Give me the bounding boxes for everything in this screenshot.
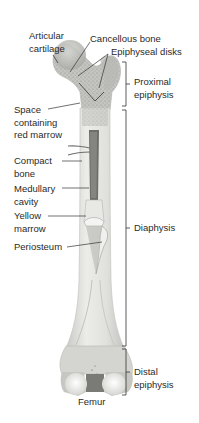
- label-line: Diaphysis: [134, 222, 175, 235]
- femur-diagram: Articular cartilage Space containing red…: [0, 0, 199, 423]
- label-line: epiphysis: [134, 379, 174, 392]
- label-line: containing: [14, 117, 62, 130]
- label-distal-epiphysis: Distal epiphysis: [134, 366, 174, 391]
- diaphysis-shape: [66, 106, 124, 348]
- label-medullary-cavity: Medullary cavity: [14, 183, 55, 208]
- label-line: Medullary: [14, 183, 55, 196]
- label-compact-bone: Compact bone: [14, 155, 52, 180]
- region-brackets: [122, 62, 130, 395]
- label-line: Yellow: [14, 210, 46, 223]
- label-line: Compact: [14, 155, 52, 168]
- bracket-diaphysis: [122, 110, 126, 346]
- label-proximal-epiphysis: Proximal epiphysis: [134, 76, 174, 101]
- label-line: cavity: [14, 196, 55, 209]
- label-line: Periosteum: [14, 241, 62, 254]
- label-yellow-marrow: Yellow marrow: [14, 210, 46, 235]
- label-line: epiphysis: [134, 89, 174, 102]
- label-epiphyseal-disks: Epiphyseal disks: [111, 46, 182, 59]
- label-diaphysis: Diaphysis: [134, 222, 175, 235]
- bracket-proximal-epiphysis: [122, 62, 126, 106]
- label-line: marrow: [14, 223, 46, 236]
- label-line: Proximal: [134, 76, 174, 89]
- label-line: Distal: [134, 366, 174, 379]
- label-line: Articular: [29, 30, 65, 43]
- label-space-red-marrow: Space containing red marrow: [14, 104, 62, 142]
- label-line: red marrow: [14, 129, 62, 142]
- label-line: Space: [14, 104, 62, 117]
- label-periosteum: Periosteum: [14, 241, 62, 254]
- label-line: cartilage: [29, 43, 65, 56]
- label-cancellous-bone: Cancellous bone: [90, 33, 161, 46]
- diagram-title: Femur: [78, 396, 105, 409]
- label-articular-cartilage: Articular cartilage: [29, 30, 65, 55]
- label-line: bone: [14, 168, 52, 181]
- distal-epiphysis-shape: [60, 346, 133, 396]
